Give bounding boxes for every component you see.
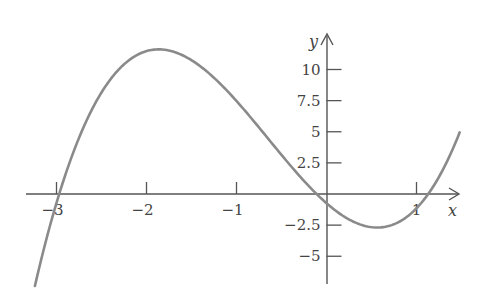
y-tick: −2.5 [284,216,341,234]
y-tick-label: −2.5 [284,216,320,234]
y-tick-label: 7.5 [297,92,321,110]
y-tick: 5 [311,123,342,141]
y-axis: 107.552.5−2.5−5 y [284,32,341,284]
x-axis: −3−2−11 x [26,182,459,220]
y-tick: −5 [298,247,341,265]
y-tick-label: 10 [301,61,320,79]
x-tick-label: −1 [221,201,243,219]
y-tick: 2.5 [297,154,342,172]
x-tick: −1 [221,182,243,219]
cubic-curve [35,49,460,286]
y-tick-label: 5 [311,123,321,141]
x-tick: −2 [131,182,153,219]
y-axis-label: y [308,32,319,51]
x-tick: 1 [412,182,422,219]
x-axis-label: x [448,201,457,220]
y-tick-label: −5 [298,247,320,265]
cubic-function-plot: −3−2−11 x 107.552.5−2.5−5 y [0,0,478,292]
y-tick: 7.5 [297,92,342,110]
x-tick-label: −2 [131,201,153,219]
y-tick-label: 2.5 [297,154,321,172]
y-tick: 10 [301,61,341,79]
